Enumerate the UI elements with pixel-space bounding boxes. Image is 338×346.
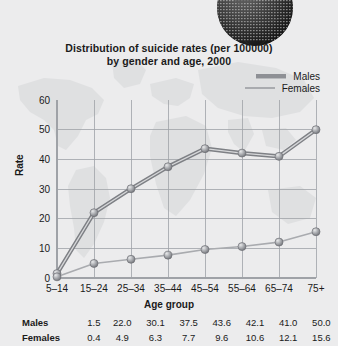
table-cell: 15.6 (305, 330, 338, 345)
svg-text:0: 0 (44, 273, 50, 284)
y-axis-ticks: 0102030405060 (39, 95, 51, 284)
table-row-label: Males (0, 315, 82, 330)
svg-text:40: 40 (39, 154, 51, 165)
gridlines (57, 100, 316, 278)
table-cell: 10.6 (238, 330, 271, 345)
table-cell: 12.1 (272, 330, 305, 345)
svg-text:10: 10 (39, 243, 51, 254)
table-cell: 7.7 (172, 330, 205, 345)
svg-text:30: 30 (39, 184, 51, 195)
svg-text:65–74: 65–74 (265, 283, 293, 294)
series-lines (57, 130, 316, 277)
table-cell: 22.0 (106, 315, 139, 330)
svg-text:15–24: 15–24 (80, 283, 108, 294)
table-cell: 30.1 (139, 315, 172, 330)
table-cell: 1.5 (82, 315, 106, 330)
table-cell: 0.4 (82, 330, 106, 345)
table-row-label: Females (0, 330, 82, 345)
y-axis-label: Rate (14, 154, 25, 176)
series-markers (53, 126, 320, 281)
data-table: Males1.522.030.137.543.642.141.050.0Fema… (0, 315, 338, 345)
table-cell: 9.6 (205, 330, 238, 345)
table-cell: 43.6 (205, 315, 238, 330)
plot-area: 0102030405060 5–1415–2425–3435–4445–5455… (0, 0, 338, 346)
x-axis-ticks: 5–1415–2425–3435–4445–5455–6465–7475+ (46, 283, 325, 294)
svg-text:45–54: 45–54 (191, 283, 219, 294)
table-cell: 42.1 (238, 315, 271, 330)
table-cell: 50.0 (305, 315, 338, 330)
svg-text:50: 50 (39, 124, 51, 135)
svg-text:5–14: 5–14 (46, 283, 69, 294)
svg-text:55–64: 55–64 (228, 283, 256, 294)
svg-text:20: 20 (39, 213, 51, 224)
svg-text:25–34: 25–34 (117, 283, 145, 294)
table-cell: 6.3 (139, 330, 172, 345)
x-axis-label: Age group (0, 299, 338, 310)
svg-text:35–44: 35–44 (154, 283, 182, 294)
table-cell: 41.0 (272, 315, 305, 330)
table-row: Males1.522.030.137.543.642.141.050.0 (0, 315, 338, 330)
svg-text:75+: 75+ (308, 283, 325, 294)
svg-text:60: 60 (39, 95, 51, 106)
table-cell: 4.9 (106, 330, 139, 345)
table-cell: 37.5 (172, 315, 205, 330)
table-row: Females0.44.96.37.79.610.612.115.6 (0, 330, 338, 345)
